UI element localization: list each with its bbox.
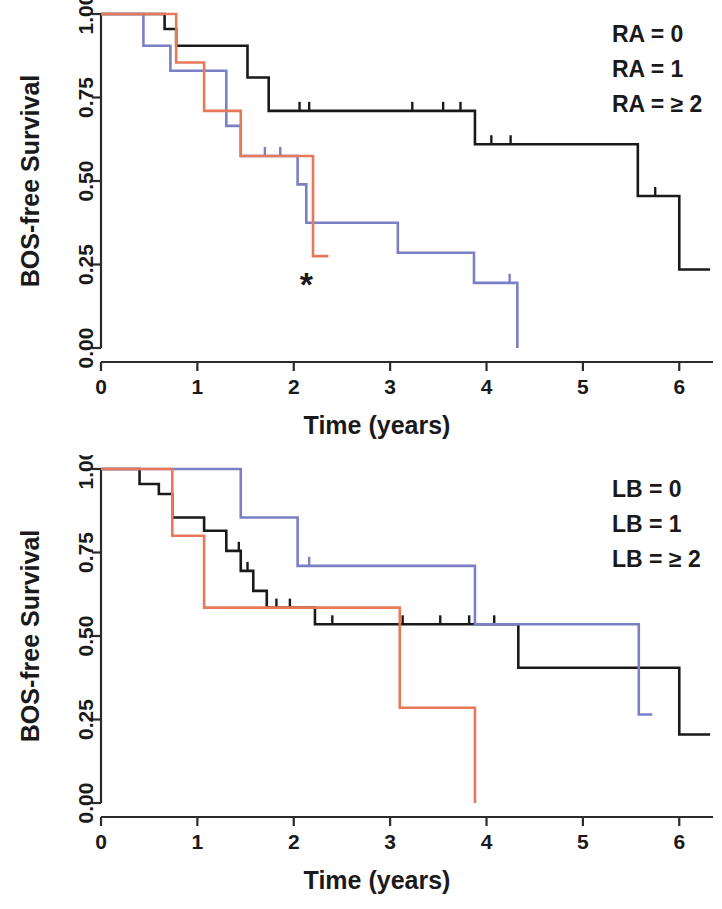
y-axis-title: BOS-free Survival — [16, 530, 44, 743]
x-tick-label: 5 — [577, 375, 589, 398]
legend-item-0: LB = 0 — [612, 476, 682, 502]
chart-panel-bottom: 0.000.250.500.751.00BOS-free Survival012… — [0, 455, 722, 909]
legend-item-2: RA = ≥ 2 — [612, 91, 702, 117]
y-tick-label: 0.25 — [74, 244, 97, 285]
legend-item-0: RA = 0 — [612, 21, 683, 47]
survival-figure: 0.000.250.500.751.00BOS-free Survival012… — [0, 0, 722, 909]
km-curve-lb-2 — [101, 469, 475, 803]
chart-panel-top: 0.000.250.500.751.00BOS-free Survival012… — [0, 0, 722, 454]
x-tick-label: 1 — [192, 830, 204, 853]
x-tick-label: 6 — [673, 375, 685, 398]
y-tick-label: 0.75 — [74, 532, 97, 573]
y-tick-label: 0.75 — [74, 77, 97, 118]
y-axis-title: BOS-free Survival — [16, 75, 44, 288]
y-tick-label: 1.00 — [74, 0, 97, 34]
km-curve-ra-0 — [101, 14, 710, 270]
x-tick-label: 5 — [577, 830, 589, 853]
km-curve-lb-1 — [101, 469, 652, 714]
x-tick-label: 6 — [673, 830, 685, 853]
x-axis-title: Time (years) — [304, 411, 451, 439]
x-tick-label: 2 — [288, 830, 300, 853]
km-curve-ra-2 — [101, 14, 328, 256]
legend-item-1: RA = 1 — [612, 56, 684, 82]
y-tick-label: 0.50 — [74, 161, 97, 202]
km-curve-lb-0 — [101, 469, 710, 735]
legend-item-1: LB = 1 — [612, 511, 682, 537]
x-tick-label: 4 — [481, 830, 493, 853]
x-tick-label: 2 — [288, 375, 300, 398]
significance-asterisk: * — [300, 265, 314, 303]
y-tick-label: 1.00 — [74, 455, 97, 489]
x-tick-label: 3 — [384, 375, 396, 398]
x-axis-title: Time (years) — [304, 866, 451, 894]
x-tick-label: 1 — [192, 375, 204, 398]
y-tick-label: 0.25 — [74, 699, 97, 740]
x-tick-label: 3 — [384, 830, 396, 853]
y-tick-label: 0.00 — [74, 783, 97, 824]
x-tick-label: 0 — [95, 375, 107, 398]
x-tick-label: 4 — [481, 375, 493, 398]
y-tick-label: 0.00 — [74, 328, 97, 369]
y-tick-label: 0.50 — [74, 616, 97, 657]
legend-item-2: LB = ≥ 2 — [612, 546, 701, 572]
x-tick-label: 0 — [95, 830, 107, 853]
